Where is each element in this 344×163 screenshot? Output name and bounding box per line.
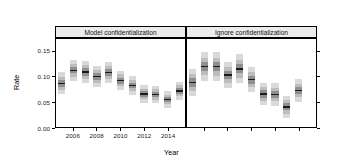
- x-tick-mark: [96, 128, 97, 131]
- median-line: [140, 93, 147, 94]
- y-tick-label: 0.05: [26, 99, 50, 106]
- x-tick-label: 2010: [112, 132, 130, 139]
- panel-strip-ignore-confidentialization: Ignore confidentialization: [186, 26, 317, 38]
- median-line: [58, 83, 65, 84]
- median-line: [117, 80, 124, 81]
- panel-strip-model-confidentialization: Model confidentialization: [55, 26, 186, 38]
- median-line: [93, 76, 100, 77]
- x-axis-title: Year: [164, 148, 179, 157]
- interval-group-ignore-confidentialization-2011: [260, 39, 267, 127]
- median-line: [82, 71, 89, 72]
- interval-group-ignore-confidentialization-2007: [213, 39, 220, 127]
- x-tick-mark: [168, 128, 169, 131]
- x-tick-mark: [144, 128, 145, 131]
- x-tick-mark-minor: [227, 128, 228, 130]
- median-line: [164, 99, 171, 100]
- median-line: [295, 90, 302, 91]
- interval-group-model-confidentialization-2006: [70, 39, 77, 127]
- interval-group-ignore-confidentialization-2014: [295, 39, 302, 127]
- x-tick-label: 2008: [88, 132, 106, 139]
- y-tick-label: 0.00: [26, 125, 50, 132]
- y-tick-label: 0.15: [26, 47, 50, 54]
- median-line: [129, 85, 136, 86]
- interval-group-model-confidentialization-2005: [58, 39, 65, 127]
- median-line: [70, 70, 77, 71]
- interval-group-ignore-confidentialization-2006: [201, 39, 208, 127]
- median-line: [189, 82, 196, 83]
- interval-group-ignore-confidentialization-2005: [189, 39, 196, 127]
- y-axis-title: Rate: [12, 75, 21, 90]
- median-line: [271, 94, 278, 95]
- median-line: [248, 79, 255, 80]
- x-tick-mark-minor: [275, 128, 276, 130]
- chart-figure: Rate Year 0.000.050.100.15 2006200820102…: [0, 0, 344, 163]
- interval-group-model-confidentialization-2011: [129, 39, 136, 127]
- interval-group-model-confidentialization-2010: [117, 39, 124, 127]
- interval-group-model-confidentialization-2014: [164, 39, 171, 127]
- median-line: [236, 68, 243, 69]
- interval-group-ignore-confidentialization-2009: [236, 39, 243, 127]
- interval-group-ignore-confidentialization-2013: [283, 39, 290, 127]
- interval-group-model-confidentialization-2013: [152, 39, 159, 127]
- x-tick-label: 2012: [135, 132, 153, 139]
- interval-group-model-confidentialization-2015: [176, 39, 183, 127]
- y-tick-mark-right: [317, 128, 320, 129]
- median-line: [176, 90, 183, 91]
- median-line: [224, 74, 231, 75]
- interval-group-ignore-confidentialization-2008: [224, 39, 231, 127]
- x-tick-mark: [120, 128, 121, 131]
- interval-group-model-confidentialization-2012: [140, 39, 147, 127]
- y-tick-mark-right: [317, 51, 320, 52]
- interval-group-ignore-confidentialization-2010: [248, 39, 255, 127]
- x-tick-label: 2014: [159, 132, 177, 139]
- median-line: [260, 93, 267, 94]
- median-line: [105, 72, 112, 73]
- interval-group-model-confidentialization-2007: [82, 39, 89, 127]
- interval-group-ignore-confidentialization-2012: [271, 39, 278, 127]
- plot-panel-model-confidentialization: [55, 38, 186, 128]
- median-line: [283, 106, 290, 107]
- x-tick-mark-minor: [204, 128, 205, 130]
- x-tick-mark: [73, 128, 74, 131]
- y-tick-mark-right: [317, 102, 320, 103]
- median-line: [213, 66, 220, 67]
- interval-group-model-confidentialization-2008: [93, 39, 100, 127]
- median-line: [201, 66, 208, 67]
- y-tick-mark-right: [317, 76, 320, 77]
- x-tick-label: 2006: [64, 132, 82, 139]
- x-tick-mark-minor: [299, 128, 300, 130]
- plot-panel-ignore-confidentialization: [186, 38, 317, 128]
- median-line: [152, 94, 159, 95]
- x-tick-mark-minor: [251, 128, 252, 130]
- y-tick-label: 0.10: [26, 73, 50, 80]
- interval-group-model-confidentialization-2009: [105, 39, 112, 127]
